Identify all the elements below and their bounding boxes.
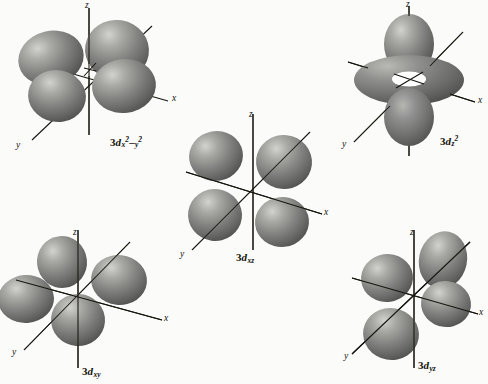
axis-label-z: z bbox=[410, 228, 414, 238]
orbital-diagram-3d-x2-y2 bbox=[0, 0, 200, 170]
lobe-upper-right bbox=[253, 132, 314, 192]
x-axis-right bbox=[450, 94, 475, 102]
orbital-label-3d-z2: 3dz2 bbox=[440, 135, 458, 148]
orbital-panel-3d-x2-y2: z x y 3dx2–y2 bbox=[0, 0, 200, 170]
axis-label-x: x bbox=[479, 308, 483, 318]
axis-label-z: z bbox=[249, 110, 253, 120]
orbital-label-3d-yz: 3dyz bbox=[418, 360, 436, 372]
lobe-lower-left bbox=[185, 185, 246, 244]
orbital-label-3d-xy: 3dxy bbox=[82, 366, 101, 378]
axis-label-y: y bbox=[16, 141, 20, 151]
label-sub-xz: xz bbox=[247, 256, 254, 265]
axis-label-y: y bbox=[180, 250, 184, 260]
orbital-figure: z x y 3dx2–y2 bbox=[0, 0, 488, 384]
axis-label-y: y bbox=[12, 348, 16, 358]
axes-overlay-3d-x2-y2 bbox=[84, 8, 96, 135]
lobes-3d-xz bbox=[185, 127, 315, 250]
orbital-label-3d-x2-y2: 3dx2–y2 bbox=[110, 136, 142, 149]
lobes-3d-yz bbox=[358, 227, 473, 365]
lobe-z-negative bbox=[384, 88, 434, 146]
axis-label-x: x bbox=[172, 94, 176, 104]
orbital-label-3d-xz: 3dxz bbox=[236, 252, 254, 264]
orbital-panel-3d-yz: z x y 3dyz bbox=[322, 228, 488, 384]
lobe-lower-left bbox=[359, 304, 423, 365]
label-sub-xy: xy bbox=[93, 370, 100, 379]
axis-label-x: x bbox=[478, 96, 482, 106]
axis-label-z: z bbox=[85, 1, 89, 11]
orbital-diagram-3d-z2 bbox=[330, 0, 488, 170]
axis-label-x: x bbox=[164, 314, 168, 324]
label-sup-2: 2 bbox=[454, 134, 458, 143]
orbital-diagram-3d-xy bbox=[0, 228, 180, 384]
label-sup-2b: 2 bbox=[138, 135, 142, 144]
lobes-3d-x2-y2 bbox=[12, 15, 159, 126]
lobe-upper-left bbox=[185, 127, 247, 186]
lobes-3d-xy bbox=[0, 234, 149, 348]
lobe-lower-right bbox=[419, 279, 474, 330]
lobe-upper-left bbox=[358, 251, 416, 306]
orbital-panel-3d-xy: z x y 3dxy bbox=[0, 228, 180, 384]
y-axis-upper bbox=[430, 32, 463, 66]
lobe-lower-right bbox=[253, 194, 312, 249]
orbital-panel-3d-z2: z x y 3dz2 bbox=[330, 0, 488, 170]
axis-label-y: y bbox=[342, 140, 346, 150]
lobe-right bbox=[89, 252, 150, 308]
label-sub-yz: yz bbox=[429, 364, 435, 373]
orbital-diagram-3d-xz bbox=[172, 110, 332, 270]
label-dash: – bbox=[129, 136, 135, 148]
axis-label-z: z bbox=[73, 228, 77, 238]
axis-label-y: y bbox=[344, 352, 348, 362]
y-axis-lower bbox=[354, 106, 390, 142]
axis-label-x: x bbox=[324, 208, 328, 218]
axis-label-z: z bbox=[406, 0, 410, 10]
orbital-panel-3d-xz: z x y 3dxz bbox=[172, 110, 332, 270]
